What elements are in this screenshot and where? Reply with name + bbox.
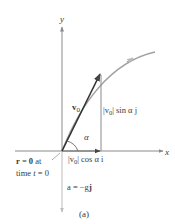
figure-caption: (a) (79, 209, 89, 219)
horizontal-component-label: |v0| cos α i (68, 154, 104, 165)
x-axis-label: x (164, 147, 169, 157)
origin-note-line1: r = 0 at (16, 156, 42, 166)
v0-label: v0 (72, 102, 81, 114)
origin-note-line2: time t = 0 (16, 168, 49, 178)
origin-pointer-line (52, 153, 60, 160)
vertical-component-label: |v0| sin α j (103, 105, 137, 116)
acceleration-label: a = −gj (67, 182, 92, 192)
v0-vector (62, 74, 100, 151)
angle-label: α (84, 132, 89, 142)
angle-arc (67, 141, 78, 151)
projectile-diagram: y x v0 |v0| sin α j α |v0| cos α i r = 0… (0, 0, 175, 224)
y-axis-label: y (59, 14, 64, 24)
